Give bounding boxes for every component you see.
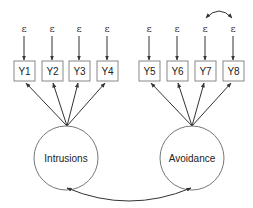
loading-arrows-avoidance (151, 83, 231, 126)
indicator-y2: Y2 (42, 61, 63, 81)
svg-text:Avoidance: Avoidance (169, 153, 216, 164)
indicator-y7: Y7 (195, 61, 216, 81)
error-term-y4: ε (104, 23, 109, 34)
indicator-y6: Y6 (167, 61, 188, 81)
factor-covariance-arc (67, 188, 191, 201)
svg-text:Y1: Y1 (18, 66, 31, 77)
svg-text:Y4: Y4 (101, 66, 114, 77)
indicator-y5: Y5 (139, 61, 160, 81)
indicator-y1: Y1 (14, 61, 35, 81)
error-term-y6: ε (174, 23, 179, 34)
indicator-y8: Y8 (223, 61, 244, 81)
svg-text:Y5: Y5 (143, 66, 156, 77)
error-terms: ε ε ε ε ε ε ε ε (21, 23, 235, 34)
indicator-y4: Y4 (97, 61, 118, 81)
svg-text:Y6: Y6 (171, 66, 184, 77)
error-covariance-arc (206, 11, 232, 18)
svg-text:Y8: Y8 (227, 66, 240, 77)
loading-arrows-intrusions (26, 83, 105, 126)
error-arrows (24, 36, 233, 60)
error-term-y8: ε (230, 23, 235, 34)
error-term-y7: ε (202, 23, 207, 34)
error-term-y3: ε (76, 23, 81, 34)
latent-factor-intrusions: Intrusions (34, 126, 98, 190)
svg-text:Intrusions: Intrusions (44, 153, 87, 164)
svg-text:Y3: Y3 (73, 66, 86, 77)
sem-diagram: ε ε ε ε ε ε ε ε Y1 Y2 Y3 Y4 Y5 Y6 Y7 Y8 (0, 0, 253, 208)
error-term-y2: ε (49, 23, 54, 34)
error-term-y5: ε (146, 23, 151, 34)
latent-factor-avoidance: Avoidance (160, 126, 224, 190)
svg-text:Y7: Y7 (199, 66, 212, 77)
svg-text:Y2: Y2 (46, 66, 59, 77)
error-term-y1: ε (21, 23, 26, 34)
indicator-y3: Y3 (69, 61, 90, 81)
